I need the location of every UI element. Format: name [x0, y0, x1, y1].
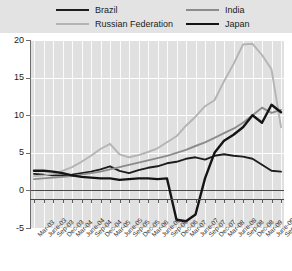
- legend-swatch-india: [186, 9, 219, 11]
- x-axis-tick: [224, 200, 225, 203]
- x-axis-tick: [72, 200, 73, 203]
- legend-swatch-japan: [186, 23, 219, 25]
- x-axis-tick: [215, 200, 216, 203]
- x-axis-tick: [91, 200, 92, 203]
- x-axis-tick: [63, 200, 64, 203]
- x-axis-tick: [82, 200, 83, 203]
- x-axis-tick: [196, 200, 197, 203]
- x-axis-tick: [243, 200, 244, 203]
- legend-item-russian-federation: Russian Federation: [56, 18, 173, 30]
- y-axis-label: -5: [2, 224, 24, 233]
- x-axis-tick: [177, 200, 178, 203]
- legend-item-japan: Japan: [186, 18, 250, 30]
- x-axis-tick: [167, 200, 168, 203]
- legend-label-russian-federation: Russian Federation: [95, 20, 173, 29]
- x-axis-tick: [272, 200, 273, 203]
- x-axis-tick: [44, 200, 45, 203]
- x-axis-tick: [148, 200, 149, 203]
- legend-label-japan: Japan: [225, 20, 250, 29]
- x-axis-tick: [158, 200, 159, 203]
- y-axis-tick: [26, 115, 30, 116]
- y-axis-tick: [26, 40, 30, 41]
- x-axis-tick: [253, 200, 254, 203]
- x-axis-tick: [101, 200, 102, 203]
- x-axis-tick: [129, 200, 130, 203]
- x-axis-tick: [34, 200, 35, 203]
- y-axis-tick: [26, 153, 30, 154]
- x-axis-tick: [205, 200, 206, 203]
- x-axis-tick: [281, 200, 282, 203]
- x-axis-tick: [110, 200, 111, 203]
- y-axis-label: 15: [2, 73, 24, 82]
- x-axis-tick: [139, 200, 140, 203]
- y-axis-label: 0: [2, 186, 24, 195]
- chart-root: Brazil Russian Federation India Japan -5…: [0, 0, 292, 271]
- y-axis-tick: [26, 228, 30, 229]
- legend-item-brazil: Brazil: [56, 4, 118, 16]
- y-axis-tick: [26, 78, 30, 79]
- x-axis-tick: [262, 200, 263, 203]
- y-axis-label: 5: [2, 148, 24, 157]
- x-axis-tick: [120, 200, 121, 203]
- y-axis-label: 10: [2, 111, 24, 120]
- y-axis: [30, 40, 31, 229]
- chart-legend: Brazil Russian Federation India Japan: [0, 0, 292, 33]
- legend-label-brazil: Brazil: [95, 6, 118, 15]
- y-axis-tick: [26, 190, 30, 191]
- legend-swatch-brazil: [56, 9, 89, 11]
- x-axis-tick: [186, 200, 187, 203]
- legend-swatch-russian-federation: [56, 23, 89, 25]
- x-axis-tick: [234, 200, 235, 203]
- legend-item-india: India: [186, 4, 245, 16]
- y-axis-label: 20: [2, 36, 24, 45]
- x-axis-tick: [53, 200, 54, 203]
- legend-label-india: India: [225, 6, 245, 15]
